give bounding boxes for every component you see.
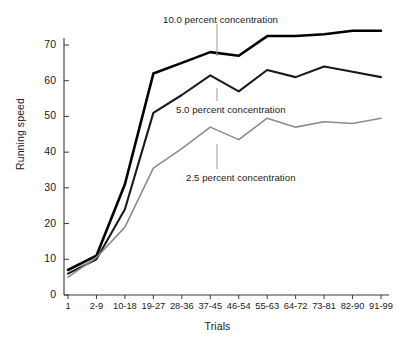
x-axis-label: Trials: [0, 320, 413, 332]
series-annotation-label: 10.0 percent concentration: [163, 14, 278, 25]
y-tick-label: 50: [30, 109, 56, 121]
y-tick-label: 40: [30, 145, 56, 157]
y-axis-label: Running speed: [14, 74, 26, 194]
series-annotation-label: 5.0 percent concentration: [176, 104, 286, 115]
series-line-2: [68, 118, 381, 277]
x-tick-label: 91-99: [361, 301, 401, 311]
running-speed-line-chart: Running speed Trials 010203040506070 12-…: [0, 0, 413, 345]
y-tick-label: 0: [30, 288, 56, 300]
series-line-1: [68, 66, 381, 273]
y-tick-label: 20: [30, 217, 56, 229]
y-tick-label: 60: [30, 74, 56, 86]
y-tick-label: 70: [30, 38, 56, 50]
y-tick-label: 10: [30, 252, 56, 264]
series-line-0: [68, 31, 381, 270]
series-annotation-label: 2.5 percent concentration: [186, 172, 296, 183]
x-axis-label-text: Trials: [183, 320, 231, 332]
y-tick-label: 30: [30, 181, 56, 193]
